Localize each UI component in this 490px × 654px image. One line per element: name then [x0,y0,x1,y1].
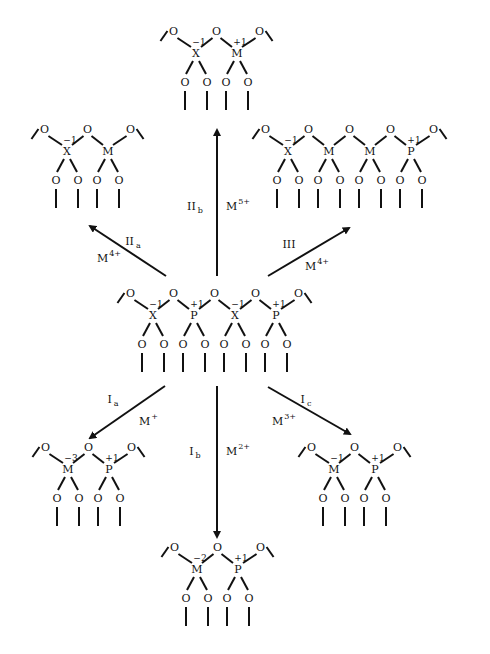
terminal-bond [298,447,305,457]
lower-oxygen: O [335,174,344,187]
bond [319,159,326,172]
lower-oxygen: O [73,174,82,187]
bond [241,577,248,590]
central-atom-m: M [231,47,242,60]
terminal-bond [32,447,39,457]
center-structure-XPXP: OOOOOX−1OOP+1OOX−1OOP+1OO [117,287,311,372]
formal-charge: +1 [272,299,285,309]
lower-oxygen: O [74,492,83,505]
terminal-bond [138,447,145,457]
bond [334,136,346,145]
arrows-layer: IIbM5+IIaM4+IIIM4+IaM+IbM2+IcM3+ [90,130,350,537]
bridging-oxygen: O [256,541,265,554]
bridging-oxygen: O [83,123,92,136]
bridging-oxygen: O [170,541,179,554]
bond [200,577,207,590]
bridging-oxygen: O [127,441,136,454]
cation-label: M4+ [305,257,329,273]
bond [156,323,163,336]
central-atom-p: P [190,309,198,322]
terminal-bond [31,129,38,139]
lower-oxygen: O [52,492,61,505]
formal-charge: −1 [192,37,205,47]
bridging-oxygen: O [429,123,438,136]
central-atom-p: P [407,145,415,158]
lower-oxygen: O [115,492,124,505]
formal-charge: +1 [371,453,384,463]
lower-oxygen: O [417,174,426,187]
formal-charge: +1 [234,553,247,563]
pathway-label: IIb [187,200,203,215]
bond [221,38,233,47]
lower-oxygen: O [181,592,190,605]
bond [395,136,407,145]
bridging-oxygen: O [261,123,270,136]
lower-oxygen: O [318,492,327,505]
bridging-oxygen: O [304,123,313,136]
lower-oxygen: O [381,492,390,505]
bond [187,577,194,590]
central-atom-p: P [234,563,242,576]
bond [71,477,78,490]
lower-oxygen: O [93,492,102,505]
lower-oxygen: O [92,174,101,187]
bond [111,159,118,172]
pathway-label: III [282,238,295,251]
terminal-bond [305,293,312,303]
terminal-bond [161,547,168,557]
lower-oxygen: O [244,592,253,605]
central-atom-m: M [364,145,375,158]
central-atom-m: M [102,145,113,158]
bond [134,300,148,309]
terminal-bond [117,293,124,303]
reaction-diagram: OOOOOX−1OOP+1OOX−1OOP+1OOOOOX−1OOM+1OOOO… [0,0,490,654]
bond [178,300,190,309]
product-Ia-MP: OOOM−3OOP+1OO [32,441,144,526]
lower-oxygen: O [51,174,60,187]
pathway-label: Ib [189,445,200,460]
central-atom-m: M [191,563,202,576]
bond [222,554,234,563]
bond [227,61,234,74]
bridging-oxygen: O [255,25,264,38]
lower-oxygen: O [203,592,212,605]
bond [112,477,119,490]
bridging-oxygen: O [251,287,260,300]
terminal-bond [252,129,259,139]
formal-charge: −1 [63,135,76,145]
lower-oxygen: O [395,174,404,187]
bridging-oxygen: O [169,25,178,38]
bond [225,323,232,336]
bond [184,323,191,336]
bond [313,136,325,145]
bond [373,159,380,172]
central-atom-x: X [149,309,157,322]
bond [99,477,106,490]
bridging-oxygen: O [294,287,303,300]
product-III-XMMP: OOOOOX−1OOMOOMOOP+1OO [252,123,446,208]
lower-oxygen: O [294,174,303,187]
terminal-bond [266,31,273,41]
reaction-arrow [90,226,166,276]
formal-charge: +1 [105,453,118,463]
lower-oxygen: O [260,338,269,351]
structures-layer: OOOOOX−1OOP+1OOX−1OOP+1OOOOOX−1OOM+1OOOO… [31,25,446,626]
bond [49,454,63,463]
lower-oxygen: O [159,338,168,351]
product-IIa-XM: OOOX−1OOMOO [31,123,143,208]
formal-charge: −2 [193,553,206,563]
bridging-oxygen: O [393,441,402,454]
lower-oxygen: O [241,338,250,351]
formal-charge: −1 [330,453,343,463]
bond [260,300,272,309]
formal-charge: −3 [64,453,78,463]
arrow-IIa: IIaM4+ [90,226,166,276]
central-atom-m: M [323,145,334,158]
lower-oxygen: O [313,174,322,187]
bridging-oxygen: O [84,441,93,454]
bond [178,554,192,563]
central-atom-m: M [62,463,73,476]
cation-label: M5+ [226,197,250,213]
bond [365,477,372,490]
central-atom-p: P [272,309,280,322]
